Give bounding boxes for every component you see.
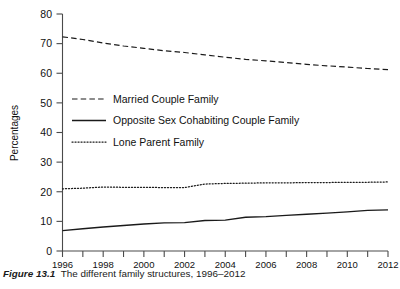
y-tick-label: 70 [40,37,52,49]
y-tick-group: 01020304050607080 [40,8,62,257]
y-tick-label: 0 [46,245,52,257]
y-axis-title: Percentages [9,105,20,161]
y-tick-label: 80 [40,8,52,20]
figure-caption: Figure 13.1 The different family structu… [3,267,397,280]
y-tick-label: 20 [40,186,52,198]
y-axis-group: 01020304050607080 [40,8,62,257]
series-line-dotted [63,182,389,189]
y-tick-label: 60 [40,67,52,79]
y-tick-label: 10 [40,215,52,227]
figure-caption-text: The different family structures, 1996–20… [61,268,246,279]
legend-label: Opposite Sex Cohabiting Couple Family [113,114,300,126]
series-line-solid [63,210,389,231]
legend-label: Married Couple Family [113,93,219,105]
chart-legend: Married Couple FamilyOpposite Sex Cohabi… [72,93,300,148]
y-tick-label: 40 [40,126,52,138]
series-line-dashed [63,37,389,70]
line-chart: 01020304050607080 1996199820002002200420… [0,0,400,289]
figure-number: Figure 13.1 [3,268,55,279]
y-tick-label: 30 [40,156,52,168]
y-tick-label: 50 [40,97,52,109]
series-group [63,37,389,231]
legend-label: Lone Parent Family [113,136,205,148]
figure-container: 01020304050607080 1996199820002002200420… [0,0,400,289]
